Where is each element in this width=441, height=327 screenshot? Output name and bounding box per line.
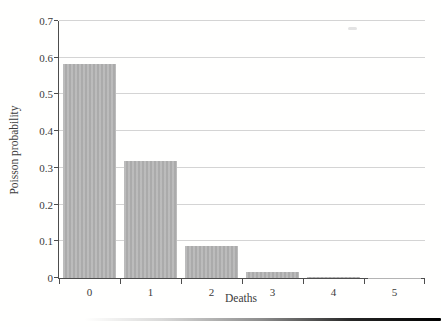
y-tick-label: 0.1 bbox=[13, 234, 53, 248]
y-axis-tick bbox=[54, 130, 58, 131]
bar bbox=[63, 64, 116, 278]
y-axis-tick bbox=[54, 204, 58, 205]
y-tick-label: 0.2 bbox=[13, 198, 53, 212]
bar bbox=[246, 272, 299, 278]
x-axis-tick bbox=[303, 279, 304, 284]
x-axis-tick bbox=[364, 279, 365, 284]
x-axis-tick bbox=[120, 279, 121, 284]
y-axis-tick bbox=[54, 167, 58, 168]
page-rule-divider bbox=[84, 318, 441, 321]
x-axis-tick bbox=[242, 279, 243, 284]
y-axis-tick bbox=[54, 57, 58, 58]
y-axis-tick bbox=[54, 240, 58, 241]
gridline bbox=[59, 57, 425, 58]
y-axis-tick bbox=[54, 20, 58, 21]
x-axis-tick bbox=[59, 279, 60, 284]
scan-smudge bbox=[348, 27, 357, 30]
y-tick-label: 0.3 bbox=[13, 161, 53, 175]
y-tick-label: 0.4 bbox=[13, 124, 53, 138]
x-axis-tick bbox=[181, 279, 182, 284]
y-tick-label: 0.6 bbox=[13, 51, 53, 65]
bar bbox=[307, 277, 360, 278]
bar bbox=[368, 278, 421, 279]
scanned-figure-page: Poisson probability 00.10.20.30.40.50.60… bbox=[0, 0, 441, 327]
gridline bbox=[59, 20, 425, 21]
bar bbox=[185, 246, 238, 278]
y-axis-tick bbox=[54, 93, 58, 94]
y-tick-label: 0.5 bbox=[13, 87, 53, 101]
x-axis-tick bbox=[424, 279, 425, 284]
plot-area: 00.10.20.30.40.50.60.7012345 bbox=[58, 21, 425, 279]
bar bbox=[124, 161, 177, 278]
y-tick-label: 0.7 bbox=[13, 14, 53, 28]
y-axis-tick bbox=[54, 277, 58, 278]
y-tick-label: 0 bbox=[13, 271, 53, 285]
x-axis-title: Deaths bbox=[58, 291, 424, 305]
